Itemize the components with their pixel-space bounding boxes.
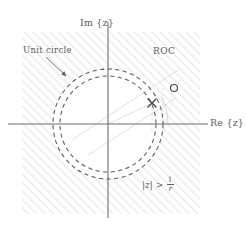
real-axis-label-text: Re {z} [210,117,244,128]
roc-label-text: ROC [153,46,175,56]
z-plane-roc-figure: Im {z} Re {z} Unit circle ROC |z|>1r [0,0,246,230]
roc-condition-label: |z|>1r [142,176,174,192]
roc-condition-magnitude: |z| [142,180,153,190]
roc-label: ROC [153,47,175,56]
roc-condition-relation: > [156,180,164,190]
real-axis-label: Re {z} [210,118,244,128]
zero-marker-o [171,85,178,92]
imaginary-axis-label-text: Im {z} [80,17,114,28]
unit-circle-label: Unit circle [23,46,72,55]
roc-condition-numerator: 1 [167,176,174,184]
roc-condition-denominator: r [167,184,174,193]
roc-condition-fraction: 1r [167,176,174,192]
imaginary-axis-label: Im {z} [80,18,114,28]
pole-marker-x [148,99,156,107]
pole-zero-layer [0,0,246,230]
unit-circle-label-text: Unit circle [23,45,72,55]
